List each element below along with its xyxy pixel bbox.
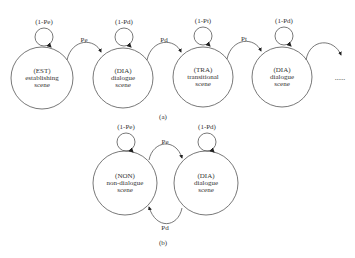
transition-pe: Pe bbox=[67, 36, 101, 60]
self-loop-dia-1: (1-Pd) bbox=[115, 18, 134, 47]
transition-next bbox=[306, 43, 341, 60]
svg-text:scene: scene bbox=[115, 81, 131, 89]
state-non: (NON) non-dialogue scene bbox=[93, 151, 157, 215]
svg-text:(1-Pe): (1-Pe) bbox=[35, 18, 53, 26]
svg-text:Pd: Pd bbox=[160, 36, 168, 44]
self-loop-dia-2: (1-Pd) bbox=[275, 17, 294, 46]
svg-text:(1-Pt): (1-Pt) bbox=[195, 17, 212, 25]
continuation-ellipsis: ...... bbox=[335, 74, 346, 82]
svg-text:scene: scene bbox=[195, 80, 211, 88]
self-loop-non: (1-Pe) bbox=[117, 123, 135, 152]
svg-text:scene: scene bbox=[117, 186, 133, 194]
svg-text:(1-Pd): (1-Pd) bbox=[115, 18, 134, 26]
svg-text:scene: scene bbox=[34, 81, 50, 89]
caption-a: (a) bbox=[159, 113, 167, 121]
svg-text:Pe: Pe bbox=[162, 138, 169, 146]
state-dia-1: (DIA) dialogue scene bbox=[93, 48, 153, 108]
svg-text:Pt: Pt bbox=[241, 35, 247, 43]
svg-text:scene: scene bbox=[274, 80, 290, 88]
state-est: (EST) establishing scene bbox=[11, 47, 73, 109]
svg-text:(1-Pd): (1-Pd) bbox=[198, 123, 217, 131]
svg-text:Pd: Pd bbox=[161, 224, 169, 232]
self-loop-tra: (1-Pt) bbox=[194, 17, 212, 46]
svg-text:(1-Pe): (1-Pe) bbox=[117, 123, 135, 131]
state-dia-2: (DIA) dialogue scene bbox=[252, 47, 312, 107]
caption-b: (b) bbox=[159, 239, 168, 247]
state-diagram: (EST) establishing scene (DIA) dialogue … bbox=[0, 0, 355, 258]
self-loop-est: (1-Pe) bbox=[35, 18, 53, 47]
svg-text:Pe: Pe bbox=[81, 36, 88, 44]
transition-b-pd: Pd bbox=[149, 207, 182, 232]
svg-text:scene: scene bbox=[198, 186, 214, 194]
transition-pt: Pt bbox=[227, 35, 261, 59]
state-tra: (TRA) transitional scene bbox=[173, 47, 233, 107]
state-dia-b: (DIA) dialogue scene bbox=[174, 151, 238, 215]
transition-b-pe: Pe bbox=[149, 138, 182, 160]
self-loop-dia-b: (1-Pd) bbox=[198, 123, 217, 152]
svg-text:(1-Pd): (1-Pd) bbox=[275, 17, 294, 25]
transition-pd: Pd bbox=[147, 36, 181, 60]
